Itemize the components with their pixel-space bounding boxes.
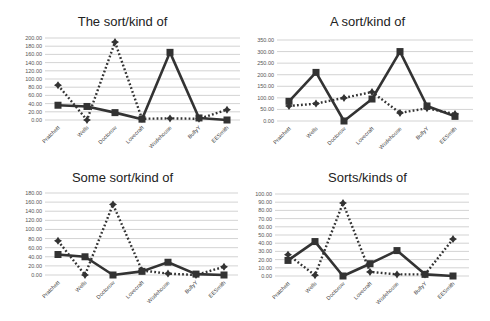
y-tick-label: 60.00 — [28, 245, 42, 251]
y-tick-label: 20.00 — [28, 263, 42, 269]
x-tick-label: Wells — [304, 280, 318, 294]
square-marker — [55, 102, 62, 109]
x-tick-label: BullyY — [186, 124, 202, 140]
x-tick-label: Wells — [305, 125, 319, 139]
x-tick-label: Wells — [74, 279, 88, 293]
x-tick-label: Wodehouse — [148, 124, 173, 149]
square-marker — [224, 117, 231, 124]
x-tick-label: Wells — [76, 124, 90, 138]
star-marker — [109, 200, 117, 208]
x-tick-label: Lovecraft — [124, 124, 145, 145]
series-line-dotted — [58, 42, 227, 120]
square-marker — [397, 48, 404, 55]
chart-sorts-kinds-of: Sorts/kinds of 0.0010.0020.0030.0040.005… — [245, 160, 490, 321]
x-tick-label: Pratchett — [41, 124, 61, 144]
star-marker — [111, 38, 119, 46]
star-marker — [220, 263, 228, 271]
star-marker — [54, 237, 62, 245]
y-tick-label: 200.00 — [257, 72, 274, 78]
chart-the-sort-kind-of: The sort/kind of 0.0020.0040.0060.0080.0… — [0, 0, 245, 160]
square-marker — [221, 272, 228, 279]
y-tick-label: 140.00 — [25, 60, 42, 66]
x-tick-label: BullyY — [183, 279, 199, 295]
y-tick-label: 160.00 — [25, 51, 42, 57]
x-tick-label: Lovecraft — [124, 279, 145, 300]
x-tick-label: Doctorow — [97, 124, 118, 145]
x-tick-label: Wodehouse — [146, 279, 171, 304]
chart-plot: 0.0010.0020.0030.0040.0050.0060.0070.008… — [245, 160, 490, 321]
y-tick-label: 300.00 — [257, 49, 274, 55]
x-tick-label: EESmith — [438, 125, 457, 144]
x-tick-label: BullyY — [414, 125, 430, 141]
y-tick-label: 40.00 — [28, 254, 42, 260]
y-tick-label: 80.00 — [28, 236, 42, 242]
x-tick-label: Doctorow — [325, 280, 346, 301]
y-tick-label: 70.00 — [258, 216, 272, 222]
x-tick-label: Pratchett — [41, 279, 61, 299]
y-tick-label: 90.00 — [258, 199, 272, 205]
y-tick-label: 0.00 — [263, 118, 274, 124]
y-tick-label: 120.00 — [25, 68, 42, 74]
y-tick-label: 40.00 — [28, 101, 42, 107]
y-tick-label: 140.00 — [25, 208, 42, 214]
star-marker — [396, 109, 404, 117]
y-tick-label: 40.00 — [258, 240, 272, 246]
square-marker — [312, 238, 319, 245]
y-tick-label: 30.00 — [258, 248, 272, 254]
star-marker — [366, 268, 374, 276]
y-tick-label: 20.00 — [258, 257, 272, 263]
y-tick-label: 80.00 — [28, 84, 42, 90]
x-tick-label: Wodehouse — [378, 125, 403, 150]
x-tick-label: EESmith — [207, 279, 226, 298]
chart-plot: 0.0020.0040.0060.0080.00100.00120.00140.… — [0, 160, 245, 321]
square-marker — [394, 247, 401, 254]
chart-a-sort-kind-of: A sort/kind of 0.0050.00100.00150.00200.… — [245, 0, 490, 160]
y-tick-label: 100.00 — [25, 226, 42, 232]
star-marker — [393, 270, 401, 278]
y-tick-label: 0.00 — [261, 273, 272, 279]
square-marker — [112, 109, 119, 116]
x-tick-label: Doctorow — [326, 125, 347, 146]
chart-plot: 0.0050.00100.00150.00200.00250.00300.003… — [245, 0, 490, 160]
y-tick-label: 60.00 — [258, 224, 272, 230]
y-tick-label: 350.00 — [257, 37, 274, 43]
star-marker — [312, 100, 320, 108]
square-marker — [341, 118, 348, 125]
square-marker — [110, 272, 117, 279]
square-marker — [340, 273, 347, 280]
y-tick-label: 50.00 — [258, 232, 272, 238]
y-tick-label: 180.00 — [25, 43, 42, 49]
y-tick-label: 50.00 — [260, 106, 274, 112]
y-tick-label: 200.00 — [25, 35, 42, 41]
x-tick-label: Pratchett — [272, 125, 292, 145]
x-tick-label: Doctorow — [95, 279, 116, 300]
y-tick-label: 150.00 — [257, 83, 274, 89]
x-tick-label: Pratchett — [271, 280, 291, 300]
y-tick-label: 100.00 — [25, 76, 42, 82]
y-tick-label: 100.00 — [257, 95, 274, 101]
y-tick-label: 80.00 — [258, 207, 272, 213]
chart-plot: 0.0020.0040.0060.0080.00100.00120.00140.… — [0, 0, 245, 160]
square-marker — [165, 259, 172, 266]
star-marker — [223, 106, 231, 114]
y-tick-label: 180.00 — [25, 190, 42, 196]
y-tick-label: 10.00 — [258, 265, 272, 271]
x-tick-label: Wodehouse — [375, 280, 400, 305]
series-line-dotted — [58, 204, 224, 275]
chart-some-sort-kind-of: Some sort/kind of 0.0020.0040.0060.0080.… — [0, 160, 245, 321]
square-marker — [84, 103, 91, 110]
x-tick-label: EESmith — [436, 280, 455, 299]
x-tick-label: Lovecraft — [352, 280, 373, 301]
y-tick-label: 20.00 — [28, 109, 42, 115]
y-tick-label: 0.00 — [31, 117, 42, 123]
y-tick-label: 100.00 — [255, 191, 272, 197]
square-marker — [450, 273, 457, 280]
star-marker — [340, 94, 348, 102]
star-marker — [311, 271, 319, 279]
x-tick-label: EESmith — [210, 124, 229, 143]
x-tick-label: BullyY — [412, 280, 428, 296]
square-marker — [82, 253, 89, 260]
x-tick-label: Lovecraft — [354, 125, 375, 146]
square-marker — [369, 96, 376, 103]
square-marker — [55, 251, 62, 258]
